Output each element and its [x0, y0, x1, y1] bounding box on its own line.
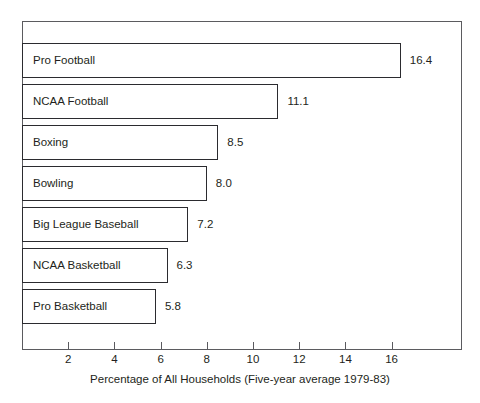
x-axis-tick [207, 342, 208, 349]
x-axis-tick-label: 2 [53, 353, 83, 365]
x-axis-tick [114, 342, 115, 349]
x-axis-tick-label: 14 [330, 353, 360, 365]
x-axis-tick [253, 342, 254, 349]
bar-chart-figure: Pro Football16.4NCAA Football11.1Boxing8… [0, 0, 480, 403]
x-axis-tick-label: 16 [377, 353, 407, 365]
x-axis-tick [392, 342, 393, 349]
x-axis-line [22, 349, 462, 350]
x-axis-tick [161, 342, 162, 349]
x-axis-tick [68, 342, 69, 349]
x-axis-tick-label: 12 [284, 353, 314, 365]
x-axis-tick-label: 4 [99, 353, 129, 365]
x-axis-tick-label: 6 [146, 353, 176, 365]
x-axis-title: Percentage of All Households (Five-year … [0, 373, 480, 385]
x-axis-tick-label: 8 [192, 353, 222, 365]
x-axis-tick [299, 342, 300, 349]
x-axis: 246810121416 [0, 0, 480, 403]
x-axis-tick-label: 10 [238, 353, 268, 365]
x-axis-tick [345, 342, 346, 349]
